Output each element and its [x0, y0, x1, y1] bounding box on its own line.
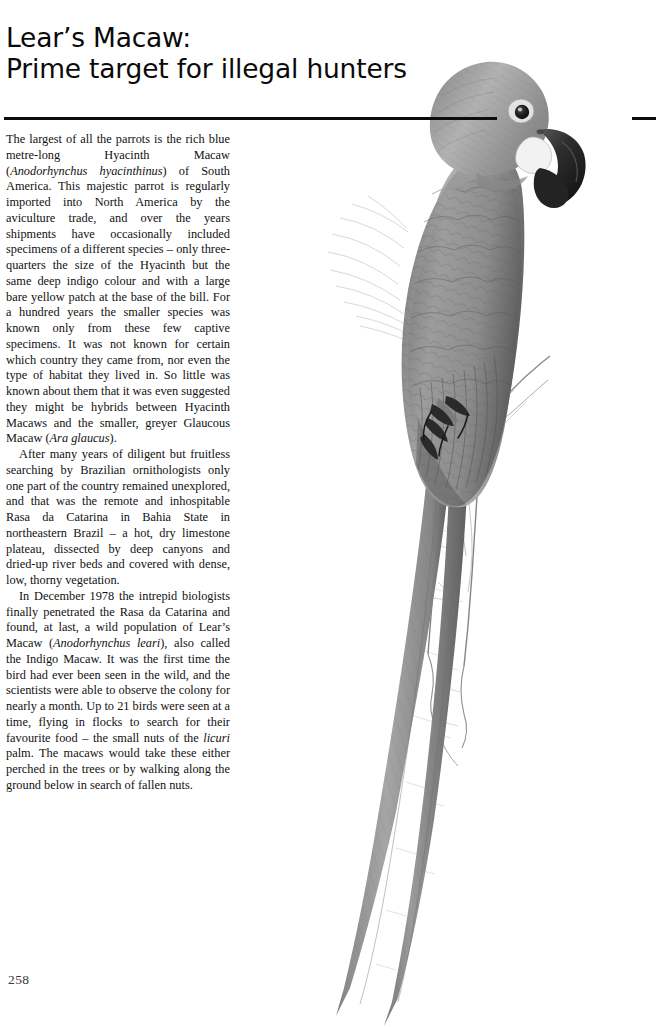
scientific-name: Anodorhynchus hyacinthinus	[10, 164, 162, 178]
nape-shading	[436, 146, 508, 204]
lower-mandible	[534, 168, 569, 208]
page-title-line-1: Lear’s Macaw:	[6, 22, 476, 53]
text-run: After many years of diligent but fruitle…	[6, 447, 230, 587]
page-title-line-2: Prime target for illegal hunters	[6, 53, 476, 84]
tarsus	[436, 398, 458, 422]
page-number: 258	[8, 972, 29, 988]
branch	[428, 356, 550, 766]
body	[408, 158, 521, 507]
page-title: Lear’s Macaw: Prime target for illegal h…	[6, 22, 476, 84]
nostril	[537, 130, 544, 135]
scientific-name: licuri	[203, 731, 230, 745]
upper-mandible	[538, 129, 586, 205]
header-rule-right	[632, 117, 656, 120]
folded-wing	[402, 147, 525, 507]
foot	[420, 396, 470, 460]
paragraph: In December 1978 the intrepid biologists…	[6, 589, 230, 794]
eye-ring	[508, 99, 534, 123]
tail	[336, 466, 468, 1026]
scientific-name: Ara glaucus	[50, 431, 110, 445]
header-rule-left	[4, 117, 497, 120]
text-run: palm. The macaws would take these either…	[6, 746, 230, 792]
claws	[420, 396, 470, 460]
macaw-illustration	[232, 26, 656, 1026]
text-run: ) of South America. This majestic parrot…	[6, 164, 230, 446]
eye-highlight	[518, 107, 522, 111]
eye	[515, 105, 529, 119]
paragraph: The largest of all the parrots is the ri…	[6, 132, 230, 447]
throat-shading	[476, 172, 528, 191]
text-run: ), also called the Indigo Macaw. It was …	[6, 636, 230, 745]
paragraph: After many years of diligent but fruitle…	[6, 447, 230, 589]
wing-sketch-feathers	[328, 196, 412, 342]
text-run: ).	[110, 431, 117, 445]
scientific-name: Anodorhynchus leari	[53, 636, 160, 650]
article-text-column: The largest of all the parrots is the ri…	[6, 132, 230, 794]
face-patch	[516, 137, 552, 173]
